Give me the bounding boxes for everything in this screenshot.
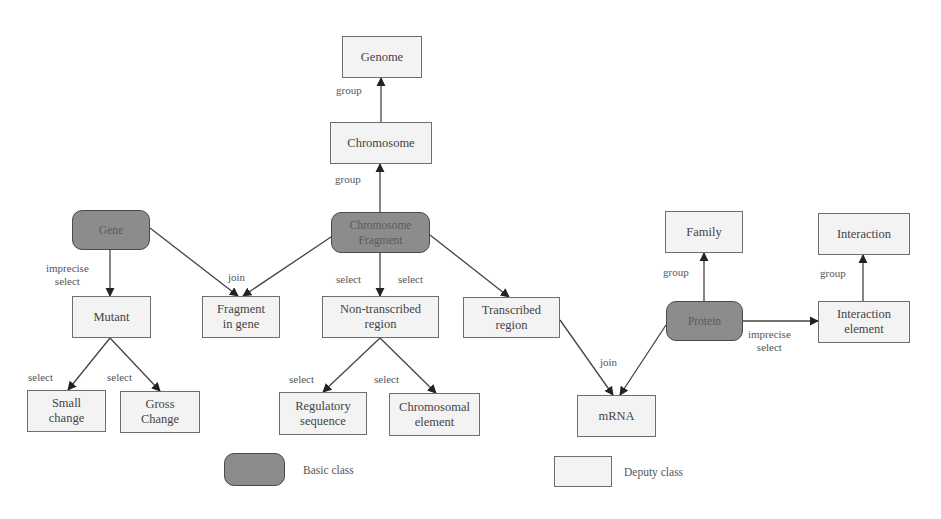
edge-label: select — [107, 371, 132, 384]
node-fragment-in-gene: Fragment in gene — [202, 296, 280, 338]
legend-swatch-basic — [224, 453, 285, 486]
node-label: Gross Change — [141, 397, 179, 427]
edge-label: imprecise select — [46, 262, 89, 288]
node-label: Family — [686, 225, 721, 240]
edge-non-transcribed-region-to-regulatory-sequence — [323, 338, 380, 392]
edge-label: select — [28, 371, 53, 384]
node-chromosomal-element: Chromosomal element — [389, 393, 480, 436]
edge-label: imprecise select — [748, 328, 791, 354]
edge-label: group — [820, 267, 846, 280]
edge-label: join — [600, 356, 617, 369]
node-label: Fragment in gene — [217, 302, 265, 332]
node-label: Transcribed region — [482, 303, 541, 333]
edge-label: select — [374, 373, 399, 386]
edge-mutant-to-small-change — [68, 338, 110, 390]
node-label: Mutant — [93, 310, 129, 325]
edge-label: group — [336, 84, 362, 97]
edge-label: group — [335, 173, 361, 186]
node-transcribed-region: Transcribed region — [463, 297, 560, 338]
edge-label: select — [336, 273, 361, 286]
legend-label-deputy: Deputy class — [624, 466, 683, 478]
node-mrna: mRNA — [577, 395, 656, 437]
node-label: Small change — [49, 396, 84, 426]
node-label: Protein — [688, 314, 721, 329]
legend-swatch-deputy — [554, 456, 612, 487]
edges-layer — [0, 0, 941, 519]
node-regulatory-sequence: Regulatory sequence — [279, 392, 367, 435]
edge-protein-to-mrna — [620, 325, 666, 395]
legend-label-basic: Basic class — [303, 464, 354, 476]
node-protein: Protein — [666, 301, 743, 341]
node-label: Chromosome — [347, 136, 414, 151]
node-chromosome-fragment: Chromosome Fragment — [331, 212, 430, 253]
node-chromosome: Chromosome — [330, 122, 432, 164]
edge-chromosome-fragment-to-fragment-in-gene — [243, 237, 331, 296]
node-interaction: Interaction — [818, 213, 910, 255]
edge-label: select — [289, 373, 314, 386]
node-interaction-element: Interaction element — [818, 301, 910, 343]
edge-label: join — [228, 271, 245, 284]
node-family: Family — [665, 211, 743, 253]
node-label: Chromosomal element — [399, 400, 470, 430]
edge-chromosome-fragment-to-transcribed-region — [430, 235, 509, 297]
node-label: Interaction — [837, 227, 891, 242]
node-small-change: Small change — [27, 390, 106, 432]
node-genome: Genome — [342, 36, 422, 78]
node-label: Gene — [99, 223, 123, 238]
edge-label: select — [398, 273, 423, 286]
node-label: Non-transcribed region — [340, 302, 421, 332]
edge-label: group — [663, 266, 689, 279]
node-non-transcribed-region: Non-transcribed region — [322, 296, 439, 338]
node-gene: Gene — [72, 210, 150, 250]
node-label: Regulatory sequence — [295, 399, 351, 429]
node-mutant: Mutant — [72, 296, 151, 338]
edge-gene-to-fragment-in-gene — [150, 228, 238, 296]
node-label: mRNA — [598, 409, 634, 424]
node-gross-change: Gross Change — [120, 391, 200, 433]
node-label: Interaction element — [837, 307, 891, 337]
class-diagram: GenomeChromosomeChromosome FragmentGeneM… — [0, 0, 941, 519]
node-label: Genome — [361, 50, 403, 65]
node-label: Chromosome Fragment — [350, 218, 412, 248]
